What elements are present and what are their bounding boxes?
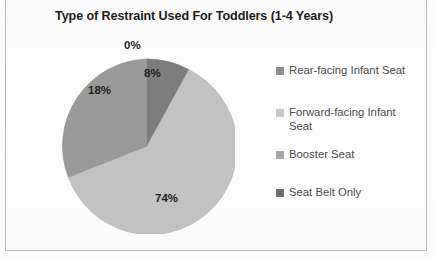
legend-swatch-icon bbox=[276, 109, 284, 117]
legend-item-label: Seat Belt Only bbox=[289, 186, 361, 200]
legend-item-label: Rear-facing Infant Seat bbox=[289, 64, 405, 78]
pie-label-rear-facing-infant-seat: 0% bbox=[124, 39, 141, 51]
legend-item-label: Forward-facing Infant Seat bbox=[289, 106, 421, 133]
pie-label-forward-facing-infant-seat: 8% bbox=[144, 67, 161, 79]
figure-border-left bbox=[5, 0, 6, 251]
figure-border-right bbox=[426, 0, 427, 251]
legend-item-rear-facing-infant-seat: Rear-facing Infant Seat bbox=[276, 64, 405, 78]
figure-border-bottom bbox=[5, 250, 427, 251]
legend-item-seat-belt-only: Seat Belt Only bbox=[276, 186, 361, 200]
legend-item-forward-facing-infant-seat: Forward-facing Infant Seat bbox=[276, 106, 421, 133]
pie-chart bbox=[59, 58, 235, 234]
pie-label-seat-belt-only: 18% bbox=[88, 84, 111, 96]
legend-item-label: Booster Seat bbox=[289, 148, 354, 162]
pie-svg bbox=[59, 58, 235, 234]
legend-swatch-icon bbox=[276, 151, 284, 159]
legend-item-booster-seat: Booster Seat bbox=[276, 148, 354, 162]
legend-swatch-icon bbox=[276, 67, 284, 75]
chart-title: Type of Restraint Used For Toddlers (1-4… bbox=[14, 9, 374, 23]
chart-figure: Type of Restraint Used For Toddlers (1-4… bbox=[0, 0, 437, 258]
legend-swatch-icon bbox=[276, 189, 284, 197]
pie-label-booster-seat: 74% bbox=[155, 192, 178, 204]
